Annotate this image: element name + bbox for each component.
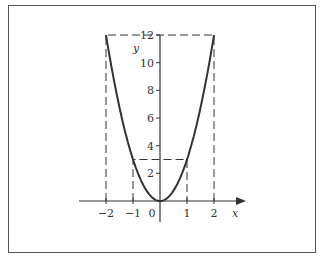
y-tick-label: 12 <box>140 29 154 42</box>
parabola-chart: 24681012−2−1120xy <box>0 0 324 259</box>
x-tick-label: −1 <box>125 207 141 220</box>
y-tick-label: 6 <box>147 112 154 125</box>
x-tick-label: −2 <box>98 207 114 220</box>
y-tick-label: 8 <box>147 84 154 97</box>
axes <box>79 35 246 222</box>
tick-labels: 24681012−2−1120xy <box>98 29 239 220</box>
x-tick-label: 2 <box>211 207 218 220</box>
y-tick-label: 4 <box>147 140 154 153</box>
origin-label: 0 <box>149 207 156 220</box>
x-tick-label: 1 <box>184 207 191 220</box>
y-axis-label: y <box>132 42 140 55</box>
x-axis-arrow-icon <box>236 197 246 205</box>
x-axis-label: x <box>232 207 239 220</box>
y-tick-label: 2 <box>147 167 154 180</box>
y-tick-label: 10 <box>140 57 154 70</box>
